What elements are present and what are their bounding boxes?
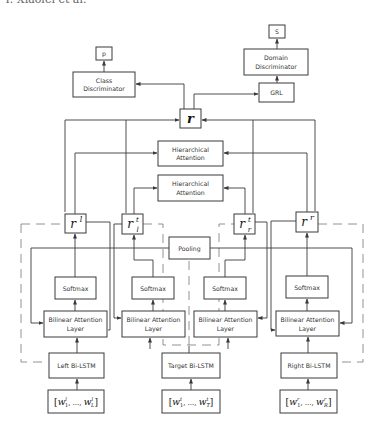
domain-discriminator-line1: Domain — [264, 54, 288, 61]
right-bilstm-label: Right Bi-LSTM — [288, 362, 331, 370]
bilinear-attention-4-line1: Bilinear Attention — [281, 316, 335, 323]
bilinear-attention-box-1: Bilinear Attention Layer — [44, 311, 107, 337]
target-bilstm-label: Target Bi-LSTM — [167, 362, 214, 370]
bilinear-attention-2-line1: Bilinear Attention — [127, 316, 181, 323]
output-s-label: S — [275, 28, 279, 35]
bilinear-attention-1-line1: Bilinear Attention — [49, 316, 103, 323]
bilinear-attention-2-line2: Layer — [145, 325, 163, 333]
grl-label: GRL — [270, 89, 283, 96]
softmax-box-4: Softmax — [286, 276, 328, 298]
left-bilstm-box: Left Bi-LSTM — [49, 353, 104, 378]
softmax-box-3: Softmax — [204, 277, 246, 299]
hierarchical-attention-bottom-line2: Attention — [176, 189, 205, 196]
rep-rr-box: r r — [296, 212, 318, 232]
output-p-label: p — [102, 50, 106, 58]
rep-rl-box: r l — [65, 214, 86, 233]
target-bilstm-box: Target Bi-LSTM — [162, 353, 220, 378]
bilinear-attention-1-line2: Layer — [67, 325, 85, 333]
bilinear-attention-box-4: Bilinear Attention Layer — [276, 311, 339, 336]
rep-rlt-box: r t l — [122, 214, 143, 234]
hierarchical-attention-top-line2: Attention — [176, 154, 205, 161]
output-p-box: p — [96, 47, 112, 60]
hierarchical-attention-bottom-line1: Hierarchical — [172, 180, 209, 187]
output-s-box: S — [269, 25, 285, 38]
target-input-box: [wt1, ..., wtT] — [162, 390, 220, 413]
softmax-label-3: Softmax — [212, 285, 238, 292]
softmax-label-2: Softmax — [140, 285, 166, 292]
domain-discriminator-box: Domain Discriminator — [244, 49, 308, 75]
right-bilstm-box: Right Bi-LSTM — [281, 353, 337, 378]
bilinear-attention-box-3: Bilinear Attention Layer — [194, 311, 257, 337]
left-input-box: [wl1, ..., wlL] — [48, 390, 104, 413]
bilinear-attention-3-line2: Layer — [217, 325, 235, 333]
right-input-box: [wr1, ..., wrR] — [280, 390, 337, 413]
softmax-label-1: Softmax — [63, 285, 89, 292]
left-bilstm-label: Left Bi-LSTM — [57, 362, 95, 369]
rep-rrt-sup: t — [248, 216, 251, 224]
hierarchical-attention-top-box: Hierarchical Attention — [158, 141, 223, 166]
rep-rl-sup: l — [80, 215, 83, 224]
pooling-label: Pooling — [178, 245, 200, 253]
pooling-box: Pooling — [169, 237, 210, 259]
rep-rlt-sup: t — [136, 216, 139, 224]
class-discriminator-line1: Class — [96, 77, 112, 84]
r-label: r — [187, 111, 195, 126]
bilinear-attention-box-2: Bilinear Attention Layer — [122, 311, 185, 337]
softmax-label-4: Softmax — [294, 284, 320, 291]
softmax-box-1: Softmax — [55, 277, 96, 299]
bilinear-attention-3-line1: Bilinear Attention — [199, 316, 253, 323]
domain-discriminator-line2: Discriminator — [255, 63, 297, 70]
hierarchical-attention-bottom-box: Hierarchical Attention — [158, 175, 223, 201]
softmax-box-2: Softmax — [132, 277, 174, 299]
hierarchical-attention-top-line1: Hierarchical — [172, 146, 209, 153]
architecture-diagram: p S Class Discriminator Domain Discrimin… — [0, 0, 384, 432]
class-discriminator-line2: Discriminator — [83, 85, 125, 92]
grl-box: GRL — [259, 83, 294, 102]
rep-rrt-box: r t r — [234, 214, 255, 234]
class-discriminator-box: Class Discriminator — [73, 72, 135, 97]
r-box: r — [180, 109, 201, 128]
bilinear-attention-4-line2: Layer — [299, 325, 317, 333]
rep-rlt-sub: l — [136, 226, 138, 234]
